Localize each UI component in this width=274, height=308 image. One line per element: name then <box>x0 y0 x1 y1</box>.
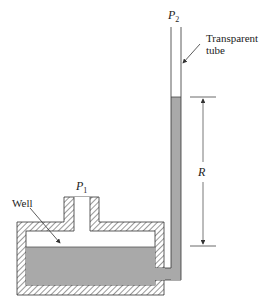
label-well: Well <box>12 197 33 209</box>
tube-liquid <box>171 97 181 280</box>
p2-subscript: 2 <box>175 15 179 24</box>
tube-leader-arrow <box>183 44 200 63</box>
tube-label-line1: Transparent <box>206 32 258 44</box>
label-p2: P2 <box>168 9 179 26</box>
well-liquid <box>26 247 155 285</box>
well-vessel <box>17 197 164 295</box>
tube-label-line2: tube <box>206 44 258 56</box>
label-transparent-tube: Transparent tube <box>206 32 258 56</box>
p1-subscript: 1 <box>83 186 87 195</box>
neck-opening <box>74 197 90 232</box>
label-p1: P1 <box>76 180 87 197</box>
label-reading-r: R <box>198 165 205 179</box>
